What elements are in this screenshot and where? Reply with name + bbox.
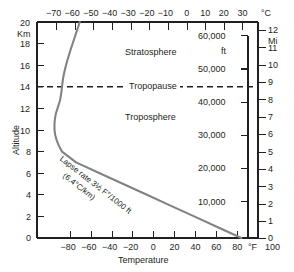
bottom-tick-label: 80: [232, 243, 242, 252]
left-tick-label: 12: [20, 105, 30, 114]
bottom-tick-label: −40: [102, 243, 117, 252]
top-tick-label: −20: [139, 9, 154, 18]
miles-tick-label: 2: [268, 200, 273, 209]
atmosphere-temperature-profile-chart: −70 −60 −50 −40 −30 −20 −10 0 10 20 30 °…: [0, 0, 294, 272]
top-tick-label: −60: [65, 9, 80, 18]
top-axis-ticks: [57, 22, 243, 30]
tropopause-label: Tropopause: [126, 82, 180, 91]
left-axis-ticks: [37, 44, 44, 217]
top-tick-label: 20: [219, 9, 229, 18]
left-tick-label: 18: [20, 40, 30, 49]
miles-tick-label: 5: [268, 148, 273, 157]
fahrenheit-unit-label: °F: [248, 243, 257, 252]
chart-canvas: [0, 0, 294, 272]
troposphere-label: Troposphere: [125, 113, 176, 122]
feet-tick-label: 50,000: [198, 65, 226, 74]
miles-tick-label: 10: [268, 61, 278, 70]
feet-axis: [241, 36, 248, 238]
top-tick-label: −70: [46, 9, 61, 18]
stratosphere-label: Stratosphere: [125, 48, 177, 57]
miles-tick-label: 4: [268, 165, 273, 174]
feet-tick-label: 40,000: [198, 98, 226, 107]
miles-tick-label: 11: [268, 44, 277, 53]
left-tick-label: 0: [26, 234, 31, 243]
top-tick-label: −10: [158, 9, 173, 18]
bottom-tick-label: −60: [81, 243, 96, 252]
feet-tick-label: 10,000: [198, 198, 226, 207]
miles-tick-label: 6: [268, 130, 273, 139]
top-tick-label: 30: [237, 9, 247, 18]
miles-tick-label: 1: [268, 217, 273, 226]
left-tick-label: 14: [20, 83, 30, 92]
bottom-tick-label: 20: [170, 243, 180, 252]
feet-unit-label: ft: [221, 47, 226, 56]
left-tick-label: 10: [20, 127, 30, 136]
left-tick-label: 16: [20, 62, 30, 71]
celsius-unit-label: °C: [261, 9, 271, 18]
bottom-tick-label: 100: [265, 243, 280, 252]
bottom-tick-label: −20: [123, 243, 138, 252]
temperature-axis-title: Temperature: [118, 256, 169, 265]
miles-tick-label: 7: [268, 113, 273, 122]
top-tick-label: −30: [121, 9, 136, 18]
miles-tick-label: 3: [268, 183, 273, 192]
miles-tick-label: 8: [268, 96, 273, 105]
bottom-tick-label: 40: [191, 243, 201, 252]
altitude-axis-title: Altitude: [12, 125, 21, 155]
left-tick-label: 20: [20, 19, 30, 28]
left-tick-label: 8: [26, 148, 31, 157]
top-tick-label: −40: [102, 9, 117, 18]
feet-tick-label: 60,000: [198, 32, 226, 41]
km-unit-label: Km: [17, 30, 31, 39]
bottom-tick-label: 60: [211, 243, 221, 252]
miles-tick-label: 9: [268, 78, 273, 87]
top-tick-label: 0: [184, 9, 189, 18]
bottom-tick-label: −80: [60, 243, 75, 252]
top-tick-label: −50: [83, 9, 98, 18]
bottom-tick-label: 0: [151, 243, 156, 252]
left-tick-label: 6: [26, 170, 31, 179]
feet-tick-label: 30,000: [198, 131, 226, 140]
miles-tick-label: 0: [268, 234, 273, 243]
left-tick-label: 4: [26, 191, 31, 200]
top-tick-label: 10: [200, 9, 210, 18]
feet-tick-label: 20,000: [198, 164, 226, 173]
miles-axis-ticks: [258, 30, 266, 238]
miles-tick-label: 12: [268, 26, 278, 35]
left-tick-label: 2: [26, 213, 31, 222]
